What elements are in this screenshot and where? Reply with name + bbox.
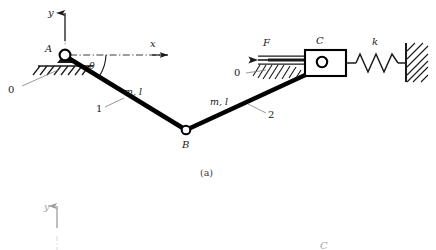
slider-ground-hatching bbox=[253, 65, 301, 79]
link-1: m, l 1 bbox=[65, 56, 186, 130]
joint-b-label: B bbox=[181, 139, 189, 150]
spring-assembly: k bbox=[346, 36, 406, 72]
x-axis-label: x bbox=[150, 38, 156, 49]
ground-support-slider: 0 bbox=[234, 65, 301, 79]
link-2-number-label: 2 bbox=[268, 109, 274, 120]
panel-a-y-axis: y bbox=[47, 7, 65, 45]
mechanism-figure: y x θ 0 m, l 1 bbox=[0, 0, 436, 250]
slider-block-c: C bbox=[305, 35, 346, 76]
joint-a-label: A bbox=[44, 43, 52, 54]
ground-support-a: 0 bbox=[8, 53, 93, 95]
link-2-properties-label: m, l bbox=[210, 96, 228, 107]
joint-b-pin bbox=[182, 126, 191, 135]
ground-label-right: 0 bbox=[234, 67, 240, 78]
spring-coil bbox=[356, 54, 398, 72]
link-2-leader-line bbox=[248, 104, 266, 113]
ground-label-left: 0 bbox=[8, 84, 14, 95]
ground-leader-line-left bbox=[22, 70, 58, 86]
spring-stiffness-label: k bbox=[372, 36, 378, 47]
link-2: m, l 2 bbox=[186, 71, 314, 130]
fixed-wall bbox=[406, 43, 428, 82]
link-1-number-label: 1 bbox=[96, 103, 102, 114]
theta-arc bbox=[100, 55, 106, 75]
wall-hatching bbox=[407, 43, 428, 82]
link-2-body bbox=[186, 71, 314, 130]
joint-c-label: C bbox=[316, 35, 324, 46]
panel-a-caption: (a) bbox=[200, 167, 213, 178]
mechanism-diagram-canvas: y x θ 0 m, l 1 bbox=[0, 0, 436, 250]
y-axis-label: y bbox=[47, 7, 54, 18]
joint-c-pin bbox=[317, 57, 327, 67]
joint-a: A bbox=[44, 43, 70, 60]
force-f-label: F bbox=[262, 37, 271, 48]
panel-b-joint-c-label: C bbox=[320, 240, 328, 250]
panel-b-partial: y C bbox=[43, 201, 328, 250]
joint-a-pin bbox=[60, 50, 71, 61]
joint-b: B bbox=[181, 126, 190, 150]
panel-b-y-axis-label: y bbox=[43, 201, 50, 212]
link-1-leader-line bbox=[105, 98, 124, 107]
panel-a-x-axis: x bbox=[70, 38, 168, 55]
link-1-properties-label: m, l bbox=[124, 86, 142, 97]
